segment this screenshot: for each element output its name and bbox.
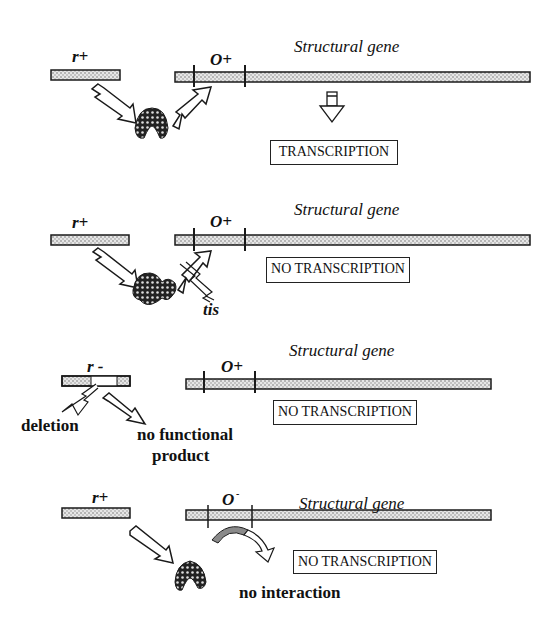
deletion-label: deletion [21, 416, 79, 436]
operator-label: O [222, 490, 234, 510]
operon-bar [175, 72, 530, 82]
regulator-gene-bar [62, 508, 130, 518]
result-box: NO TRANSCRIPTION [293, 550, 437, 574]
regulator-label: r+ [72, 47, 88, 67]
operon-bar [175, 235, 530, 245]
result-box: NO TRANSCRIPTION [266, 257, 410, 283]
result-box: TRANSCRIPTION [270, 140, 398, 165]
tis-label: tis [203, 300, 219, 320]
expression-arrow-icon [92, 84, 136, 123]
deletion-lightning-icon [62, 384, 98, 415]
no-product-arrow-icon [103, 393, 145, 424]
structural-gene-label: Structural gene [294, 200, 399, 220]
no-interaction-arrow-icon [244, 530, 274, 562]
regulator-label: r - [87, 357, 104, 377]
operon-diagram [0, 0, 547, 623]
regulator-label: r+ [92, 488, 108, 508]
panel-4 [62, 505, 491, 590]
operator-label: O+ [221, 357, 243, 377]
transcription-arrow-icon [320, 106, 344, 122]
no-interaction-label: no interaction [239, 583, 341, 603]
binding-arrow-icon [173, 87, 211, 129]
no-interaction-arrow-grey [212, 527, 248, 543]
expression-arrow-icon [130, 526, 173, 563]
operator-label: O+ [210, 212, 232, 232]
expression-arrow-icon [93, 248, 138, 288]
operator-superscript: - [236, 488, 239, 499]
structural-gene-label: Structural gene [294, 37, 399, 57]
regulator-label: r+ [72, 213, 88, 233]
regulator-gene-bar [51, 235, 129, 245]
operon-bar [186, 379, 491, 389]
structural-gene-label: Structural gene [299, 494, 404, 514]
transcription-arrow-stem [327, 92, 337, 106]
regulator-gene-bar [51, 70, 120, 80]
no-functional-label: no functional [137, 425, 233, 445]
structural-gene-label: Structural gene [289, 341, 394, 361]
repressor-protein-icon [135, 108, 168, 138]
result-box: NO TRANSCRIPTION [273, 400, 417, 425]
panel-1 [51, 65, 530, 138]
operator-label: O+ [210, 50, 232, 70]
product-label: product [152, 446, 209, 466]
repressor-protein-icon [133, 273, 176, 305]
repressor-protein-icon [175, 561, 206, 590]
